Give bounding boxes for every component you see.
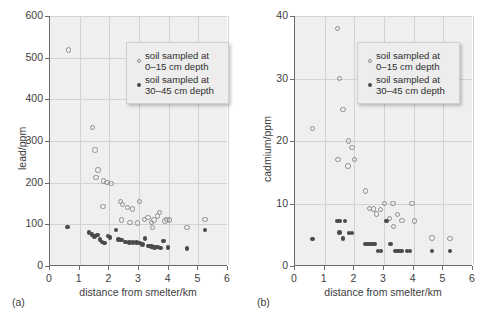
x-tick-mark <box>324 266 325 270</box>
data-point <box>429 235 434 240</box>
x-tick-label: 4 <box>158 272 178 284</box>
y-tick-mark <box>45 224 49 225</box>
legend-label-line1: soil sampled at <box>376 50 440 61</box>
y-tick-label: 500 <box>9 51 43 63</box>
data-point <box>341 236 346 241</box>
data-point <box>448 249 453 254</box>
legend-label-line1: soil sampled at <box>145 50 209 61</box>
data-point <box>379 249 384 254</box>
gridline-horizontal <box>50 183 227 184</box>
legend-item: soil sampled at 30–45 cm depth <box>364 74 452 97</box>
legend-item: soil sampled at 0–15 cm depth <box>133 50 221 73</box>
data-point <box>184 225 189 230</box>
x-axis-label-a: distance from smelter/km <box>49 286 227 298</box>
gridline-vertical <box>473 16 474 265</box>
data-point <box>166 245 171 250</box>
legend-item: soil sampled at 30–45 cm depth <box>133 74 221 97</box>
x-tick-mark <box>108 266 109 270</box>
y-tick-mark <box>290 141 294 142</box>
legend-a: soil sampled at 0–15 cm depth soil sampl… <box>126 42 229 104</box>
data-point <box>150 225 155 230</box>
data-point <box>108 181 113 186</box>
x-tick-label: 5 <box>432 272 452 284</box>
y-tick-mark <box>45 183 49 184</box>
data-point <box>388 242 393 247</box>
gridline-horizontal <box>50 16 227 17</box>
y-tick-mark <box>290 204 294 205</box>
data-point <box>395 212 400 217</box>
x-tick-mark <box>413 266 414 270</box>
gridline-horizontal <box>295 141 472 142</box>
x-tick-mark <box>138 266 139 270</box>
x-tick-label: 6 <box>217 272 237 284</box>
data-point <box>408 249 413 254</box>
x-tick-mark <box>294 266 295 270</box>
x-tick-mark <box>383 266 384 270</box>
data-point <box>337 76 342 81</box>
data-point <box>399 218 404 223</box>
data-point <box>337 219 342 224</box>
data-point <box>137 199 142 204</box>
panel-a: distance from smelter/km lead/ppm (a) so… <box>0 0 244 320</box>
data-point <box>343 219 348 224</box>
y-tick-label: 30 <box>254 72 288 84</box>
data-point <box>447 236 452 241</box>
y-tick-mark <box>45 266 49 267</box>
x-tick-mark <box>197 266 198 270</box>
legend-label-line2: 30–45 cm depth <box>376 85 445 96</box>
legend-label-line2: 0–15 cm depth <box>376 61 439 72</box>
data-point <box>382 201 387 206</box>
data-point <box>100 204 105 209</box>
gridline-horizontal <box>295 16 472 17</box>
y-tick-label: 0 <box>254 259 288 271</box>
data-point <box>390 201 395 206</box>
legend-item: soil sampled at 0–15 cm depth <box>364 50 452 73</box>
legend-label-line1: soil sampled at <box>376 74 440 85</box>
y-tick-mark <box>45 16 49 17</box>
data-point <box>346 138 351 143</box>
filled-circle-icon <box>364 83 376 87</box>
y-tick-label: 200 <box>9 176 43 188</box>
data-point <box>203 228 208 233</box>
x-tick-mark <box>49 266 50 270</box>
y-tick-mark <box>45 141 49 142</box>
x-tick-label: 3 <box>128 272 148 284</box>
x-tick-label: 1 <box>69 272 89 284</box>
data-point <box>345 163 350 168</box>
legend-label-line2: 30–45 cm depth <box>145 85 214 96</box>
y-tick-label: 10 <box>254 197 288 209</box>
data-point <box>135 220 140 225</box>
data-point <box>158 246 163 251</box>
data-point <box>114 228 119 233</box>
x-tick-label: 2 <box>343 272 363 284</box>
data-point <box>412 218 417 223</box>
data-point <box>310 237 315 242</box>
x-tick-mark <box>353 266 354 270</box>
x-tick-label: 0 <box>284 272 304 284</box>
data-point <box>335 157 340 162</box>
x-axis-label-b: distance from smelter/km <box>294 286 472 298</box>
data-point <box>337 230 342 235</box>
data-point <box>157 210 162 215</box>
data-point <box>143 236 148 241</box>
y-tick-label: 400 <box>9 92 43 104</box>
data-point <box>310 126 315 131</box>
data-point <box>391 224 396 229</box>
x-tick-mark <box>168 266 169 270</box>
data-point <box>185 246 190 251</box>
data-point <box>340 107 345 112</box>
y-tick-label: 100 <box>9 217 43 229</box>
data-point <box>140 242 145 247</box>
x-tick-mark <box>227 266 228 270</box>
y-tick-label: 20 <box>254 134 288 146</box>
data-point <box>93 175 98 180</box>
y-tick-label: 0 <box>9 259 43 271</box>
y-tick-mark <box>45 58 49 59</box>
x-tick-label: 3 <box>373 272 393 284</box>
y-tick-mark <box>45 99 49 100</box>
data-point <box>102 241 107 246</box>
data-point <box>430 249 435 254</box>
data-point <box>409 201 414 206</box>
panel-tag-a: (a) <box>12 296 25 308</box>
x-tick-label: 5 <box>187 272 207 284</box>
